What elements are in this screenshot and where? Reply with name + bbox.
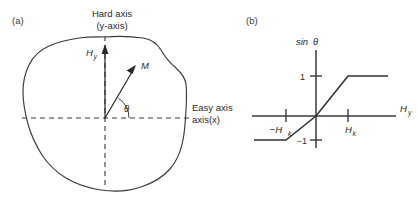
x-tick-label-positive-hk: H (345, 124, 352, 135)
field-vector-arrowhead (102, 44, 109, 54)
field-label: H (86, 47, 93, 58)
x-axis-label-subscript: y (407, 109, 412, 117)
x-tick-label-positive-hk-subscript: k (353, 130, 357, 137)
figure-svg: (a) Hard axis (y-axis) Easy axis axis(x)… (0, 0, 419, 205)
easy-axis-label-line2: axis(x) (192, 114, 220, 125)
easy-axis-label-line1: Easy axis (192, 102, 233, 113)
theta-label: θ (124, 103, 130, 114)
y-tick-label-positive-one: 1 (300, 72, 305, 82)
field-label-subscript: y (93, 53, 98, 61)
panel-a-label: (a) (12, 15, 24, 26)
figure-root: (a) Hard axis (y-axis) Easy axis axis(x)… (0, 0, 419, 205)
hard-axis-label-line1: Hard axis (92, 8, 132, 19)
panel-b-group: (b) sin θ H y 1 −1 −H k H k (246, 15, 412, 148)
y-axis-label-theta: θ (313, 36, 319, 47)
x-tick-label-negative-hk: −H (270, 124, 283, 135)
magnetization-label: M (141, 60, 149, 71)
magnetization-vector-arrowhead (127, 65, 137, 74)
y-tick-label-negative-one: −1 (297, 136, 307, 146)
panel-a-group: (a) Hard axis (y-axis) Easy axis axis(x)… (12, 8, 233, 191)
x-axis-label: H (400, 103, 407, 114)
panel-b-label: (b) (246, 15, 258, 26)
hard-axis-label-line2: (y-axis) (96, 20, 127, 31)
y-axis-label-sin: sin (296, 36, 308, 47)
